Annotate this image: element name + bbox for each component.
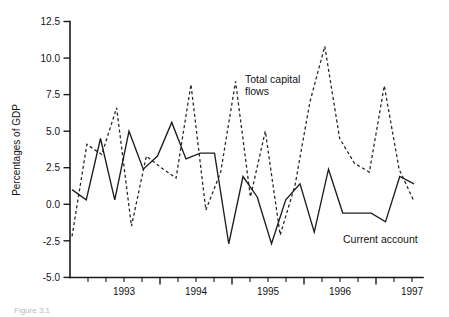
- series-total-capital-flows: [72, 46, 414, 236]
- y-tick-label-neg-5-0: -5.0: [43, 272, 61, 283]
- y-tick-label-2-5: 2.5: [46, 162, 60, 173]
- y-tick-label-neg-2-5: -2.5: [43, 236, 61, 247]
- y-tick-label-7-5: 7.5: [46, 89, 60, 100]
- x-tick-label-1994: 1994: [185, 286, 208, 297]
- annotation-total-capital-flows-line2: flows: [245, 85, 269, 97]
- series-current-account: [72, 122, 414, 243]
- x-tick-label-1993: 1993: [113, 286, 136, 297]
- annotation-total-capital-flows-line1: Total capital: [245, 73, 300, 85]
- y-tick-label-12-5: 12.5: [41, 16, 61, 27]
- x-tick-label-1995: 1995: [257, 286, 280, 297]
- annotation-current-account: Current account: [343, 233, 418, 245]
- line-chart: 12.5 10.0 7.5 5.0 2.5 0.0 -2.5 -5.0: [0, 0, 449, 317]
- figure-caption: Figure 3.1: [14, 306, 51, 315]
- y-axis-title: Percentages of GDP: [11, 104, 22, 196]
- chart-figure: 12.5 10.0 7.5 5.0 2.5 0.0 -2.5 -5.0: [0, 0, 449, 317]
- y-tick-label-5-0: 5.0: [46, 126, 60, 137]
- y-tick-label-0-0: 0.0: [46, 199, 60, 210]
- x-tick-label-1996: 1996: [329, 286, 352, 297]
- y-tick-group: [64, 22, 71, 278]
- x-tick-label-1997: 1997: [401, 286, 424, 297]
- y-tick-label-10-0: 10.0: [41, 53, 61, 64]
